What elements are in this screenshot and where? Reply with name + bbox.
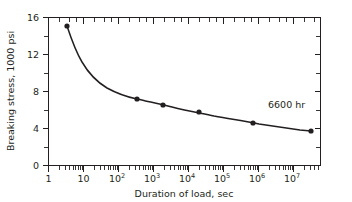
data-series-curve — [67, 26, 311, 131]
y-tick-label: 8 — [33, 86, 39, 97]
data-points — [64, 23, 313, 133]
y-axis-title: Breaking stress, 1000 psi — [5, 31, 16, 151]
x-tick-label: 10 — [77, 173, 89, 184]
data-point — [160, 102, 165, 107]
x-axis-top-ticks — [59, 18, 315, 24]
x-tick-label: 104 — [179, 172, 195, 184]
x-tick-label: 106 — [249, 172, 265, 184]
x-tick-label: 103 — [144, 172, 160, 184]
data-point — [250, 120, 255, 125]
axes-frame — [49, 18, 321, 166]
plot-border — [49, 18, 321, 166]
data-point — [64, 23, 69, 28]
breaking-stress-chart: 0 4 8 12 16 1 10 102 103 104 105 — [0, 0, 352, 202]
data-point — [196, 109, 201, 114]
x-tick-labels: 1 10 102 103 104 105 106 107 — [45, 172, 300, 184]
data-point — [308, 128, 313, 133]
annotation-6600-hr: 6600 hr — [268, 99, 305, 110]
x-tick-label: 105 — [214, 172, 230, 184]
y-tick-label: 12 — [27, 49, 39, 60]
data-point — [134, 96, 139, 101]
y-tick-label: 16 — [27, 12, 39, 23]
y-tick-labels: 0 4 8 12 16 — [27, 12, 39, 171]
y-axis-right-ticks — [315, 36, 321, 147]
y-axis-major-ticks — [43, 18, 49, 166]
x-axis-title: Duration of load, sec — [135, 188, 234, 199]
x-tick-label: 107 — [284, 172, 300, 184]
y-tick-label: 0 — [33, 160, 39, 171]
x-tick-label: 102 — [109, 172, 125, 184]
y-tick-label: 4 — [33, 123, 39, 134]
x-tick-label: 1 — [45, 173, 51, 184]
chart-figure: 0 4 8 12 16 1 10 102 103 104 105 — [0, 0, 352, 202]
